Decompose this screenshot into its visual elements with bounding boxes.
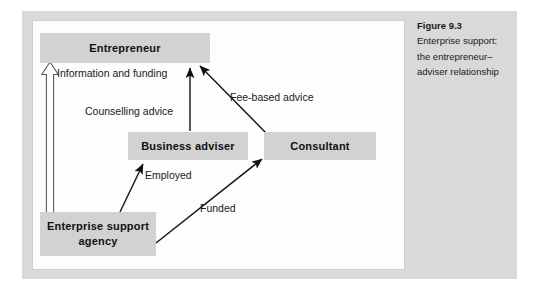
node-business-adviser-label: Business adviser	[141, 139, 235, 154]
figure-caption-line-3: adviser relationship	[417, 64, 515, 79]
edge-label-counselling-advice: Counselling advice	[85, 106, 173, 117]
node-consultant-label: Consultant	[290, 139, 349, 154]
node-entrepreneur: Entrepreneur	[40, 33, 210, 63]
edge-label-information-and-funding: Information and funding	[57, 68, 167, 79]
node-business-adviser: Business adviser	[128, 132, 248, 160]
node-enterprise-support-agency: Enterprise support agency	[40, 212, 156, 256]
figure-root: Entrepreneur Business adviser Consultant…	[0, 0, 539, 292]
figure-caption: Figure 9.3 Enterprise support: the entre…	[417, 18, 515, 80]
edge-label-funded: Funded	[200, 203, 236, 214]
node-enterprise-support-agency-label: Enterprise support agency	[44, 219, 152, 249]
node-consultant: Consultant	[264, 132, 376, 160]
node-entrepreneur-label: Entrepreneur	[89, 41, 160, 56]
edge-label-employed: Employed	[145, 170, 192, 181]
edge-label-fee-based-advice: Fee-based advice	[230, 92, 313, 103]
figure-caption-line-2: the entrepreneur–	[417, 49, 515, 64]
figure-caption-line-1: Enterprise support:	[417, 33, 515, 48]
figure-caption-title: Figure 9.3	[417, 18, 515, 33]
